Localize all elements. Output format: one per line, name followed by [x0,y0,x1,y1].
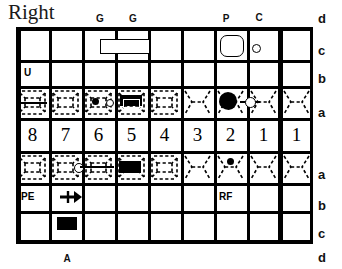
mark-line-upper-col8 [20,102,47,104]
tooth-number-1-right: 1 [247,125,280,144]
top-marker-g-col6: G [90,14,110,24]
mark-dot-upper-col6 [92,98,99,105]
tooth-number-6: 6 [82,125,115,144]
mark-open-circle-upper-col6 [106,99,114,107]
mark-bridge-rect-upper-c [100,39,150,54]
grid-hline-top [16,27,313,31]
row-label-lower-a: a [318,169,336,181]
mark-dot-lower-col2 [227,158,234,165]
mark-open-circle-lower-col7 [74,163,84,173]
tooth-number-5: 5 [115,125,148,144]
row-label-bottom-d: d [318,252,336,264]
mark-line-lower-col7-6 [80,166,114,168]
tooth-lower-1-right[interactable] [247,152,280,185]
grid-hline-c-b [16,60,313,63]
row-label-top-d: d [318,13,336,25]
cell-code-pe: PE [21,192,34,202]
mark-open-circle-upper-c [252,44,261,53]
row-label-lower-c: c [318,228,336,240]
page-title: Right [8,2,55,23]
tooth-upper-7[interactable] [49,87,82,120]
bottom-marker-a-col7: A [57,254,77,264]
mark-crown-upper-c [220,35,244,57]
mark-right-arrow-lower-col7 [58,187,86,211]
tooth-lower-3[interactable] [181,152,214,185]
row-label-top-b: b [318,73,336,85]
row-label-lower-b: b [318,200,336,212]
top-marker-g-col5: G [123,14,143,24]
tooth-lower-1-left[interactable] [280,152,313,185]
grid-hline-b2-c2 [16,211,313,214]
tooth-number-7: 7 [49,125,82,144]
odontogram-grid: U [16,27,313,244]
tooth-lower-6[interactable] [82,152,115,185]
mark-open-circle-upper-col1 [245,97,256,108]
dental-chart: Right G G P C d c b a a b c d A [0,0,342,269]
tooth-lower-8[interactable] [16,152,49,185]
mark-filling-upper-col5-inner [123,99,140,108]
cell-code-u: U [24,68,31,78]
tooth-upper-3[interactable] [181,87,214,120]
tooth-lower-2[interactable] [214,152,247,185]
tooth-lower-4[interactable] [148,152,181,185]
tooth-upper-1-left[interactable] [280,87,313,120]
top-marker-c-col1: C [249,13,269,23]
tooth-upper-4[interactable] [148,87,181,120]
tooth-number-8: 8 [16,125,49,144]
tooth-number-2: 2 [214,125,247,144]
top-marker-p-col2: P [216,14,236,24]
row-label-upper-a: a [318,107,336,119]
tooth-number-4: 4 [148,125,181,144]
mark-filling-lower-col5 [119,161,141,173]
tooth-number-3: 3 [181,125,214,144]
mark-block-lower-c-col7 [57,217,77,230]
tooth-number-1-left: 1 [280,125,313,144]
grid-hline-bottom [16,240,313,244]
cell-code-rf: RF [219,192,232,202]
row-label-top-c: c [318,45,336,57]
mark-blob-upper-col2 [219,92,237,110]
